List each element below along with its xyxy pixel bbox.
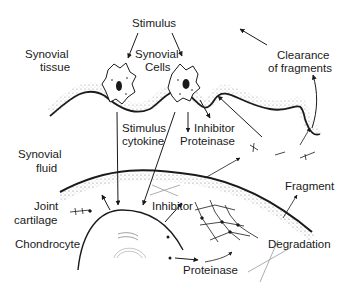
label-synovial-cells-1: Synovial [135, 48, 178, 61]
label-proteinase-bottom: Proteinase [183, 264, 238, 277]
label-stimulus-cytokine-1: Stimulus [122, 122, 166, 135]
label-stimulus-cytokine-2: cytokine [122, 135, 164, 148]
label-joint-cartilage-2: cartilage [14, 214, 57, 227]
label-synovial-tissue-1: Synovial [25, 48, 68, 61]
label-inhibitor-top: Inhibitor [194, 122, 235, 135]
label-fragment: Fragment [285, 180, 334, 193]
cartilage-matrix-network [195, 200, 258, 242]
label-clearance-1: Clearance [277, 49, 329, 62]
label-stimulus-top: Stimulus [132, 17, 176, 30]
label-synovial-fluid-2: fluid [36, 162, 57, 175]
label-proteinase-top: Proteinase [180, 135, 235, 148]
label-chondrocyte: Chondrocyte [15, 238, 80, 251]
signal-lines [117, 100, 210, 205]
label-synovial-cells-2: Cells [145, 61, 171, 74]
label-degradation: Degradation [268, 238, 331, 251]
label-synovial-tissue-2: tissue [40, 61, 70, 74]
label-clearance-2: of fragments [268, 62, 332, 75]
label-synovial-fluid-1: Synovial [18, 148, 61, 161]
label-joint-cartilage-1: Joint [34, 200, 58, 213]
label-inhibitor-bottom: Inhibitor [152, 200, 193, 213]
